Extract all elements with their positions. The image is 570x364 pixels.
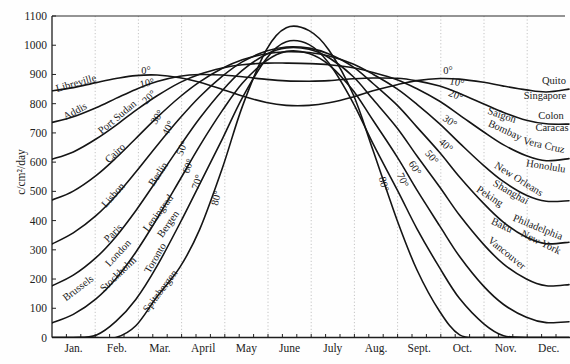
city-label: Baku [490,215,515,235]
month-label: Nov. [495,342,517,354]
city-label: Quito [542,75,566,86]
x-axis-month-labels: Jan.Feb.Mar.AprilMayJuneJulyAug.Sept.Oct… [64,342,559,355]
latitude-curves [52,26,569,338]
month-label: Feb. [107,342,127,354]
city-label: Port Sudan [96,97,139,136]
insolation-by-latitude-chart: 010020030040050060070080090010001100 Jan… [0,0,570,364]
y-tick-label: 400 [30,215,48,227]
month-label: April [191,342,215,355]
y-tick-label: 900 [30,68,48,80]
city-label: Cairo [103,141,128,165]
month-label: July [323,342,342,355]
y-tick-label: 1000 [24,39,47,51]
y-tick-label: 700 [30,127,48,139]
latitude-degree-label: 10° [139,76,156,90]
y-axis-title: c/cm²/day [15,149,28,195]
latitude-degree-label: 80° [209,190,223,207]
latitude-degree-label: 80° [377,176,391,193]
y-axis-tick-labels: 010020030040050060070080090010001100 [24,10,47,344]
city-label: Singapore [524,90,567,101]
month-label: Sept. [408,342,431,355]
latitude-degree-label: 70° [189,173,204,190]
y-tick-label: 1100 [24,10,47,22]
y-tick-label: 800 [30,98,48,110]
city-label: Brussels [60,273,95,303]
city-labels: LibrevilleAddisPort SudanCairoLisbonBerl… [55,72,569,314]
latitude-degree-label: 20° [447,87,465,103]
y-tick-label: 100 [30,302,48,314]
latitude-degree-label: 20° [140,88,158,106]
city-label: Libreville [55,72,98,94]
city-label: Vera Cruz [522,135,566,155]
y-tick-label: 500 [30,185,48,197]
y-tick-label: 200 [30,273,48,285]
latitude-degree-label: 0° [443,65,452,76]
month-label: Aug. [365,342,388,355]
city-label: Caracas [535,122,568,133]
month-label: Mar. [149,342,171,354]
month-label: June [279,342,300,354]
y-tick-label: 0 [41,332,47,344]
month-label: Oct. [453,342,473,354]
latitude-degree-label: 50° [174,139,190,157]
latitude-degree-label: 0° [141,65,150,76]
latitude-degree-label: 60° [180,157,195,175]
city-label: Colon [538,110,564,121]
curve-latitude-80 [52,26,569,338]
month-label: Dec. [538,342,560,354]
city-label: Berlin [146,159,170,188]
city-label: Spitzbergen [141,267,180,314]
y-tick-label: 600 [30,156,48,168]
month-label: Jan. [64,342,82,354]
month-label: May [236,342,257,355]
city-label: Addis [61,100,88,121]
y-tick-label: 300 [30,244,48,256]
city-label: Lisbon [99,180,127,210]
latitude-degree-label: 40° [160,119,177,137]
